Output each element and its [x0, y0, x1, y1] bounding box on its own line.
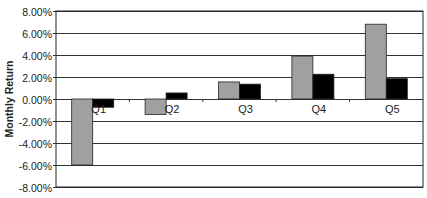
category-labels: Q1Q2Q3Q4Q5 — [91, 99, 399, 115]
bar-q3-series2 — [240, 84, 261, 99]
bar-q2-series2 — [166, 93, 187, 99]
y-tick-label: -4.00% — [19, 138, 52, 150]
category-label: Q3 — [238, 103, 253, 115]
y-tick-label: 4.00% — [22, 50, 52, 62]
bar-q4-series2 — [313, 74, 334, 99]
bar-q2-series1 — [145, 99, 166, 114]
bar-q3-series1 — [219, 82, 240, 99]
bar-q4-series1 — [292, 56, 313, 99]
y-tick-label: -8.00% — [19, 182, 52, 194]
y-tick-label: -6.00% — [19, 160, 52, 172]
y-tick-label: 2.00% — [22, 72, 52, 84]
y-tick-label: 8.00% — [22, 6, 52, 18]
y-tick-label: -2.00% — [19, 116, 52, 128]
bar-chart: 8.00%6.00%4.00%2.00%0.00%-2.00%-4.00%-6.… — [0, 0, 427, 198]
bar-q5-series2 — [386, 79, 407, 99]
y-axis-ticks: 8.00%6.00%4.00%2.00%0.00%-2.00%-4.00%-6.… — [19, 6, 56, 194]
y-tick-label: 0.00% — [22, 94, 52, 106]
category-label: Q2 — [165, 103, 180, 115]
y-axis-label: Monthly Return — [3, 61, 15, 138]
bar-q5-series1 — [365, 24, 386, 99]
category-label: Q4 — [312, 103, 327, 115]
category-label: Q1 — [91, 103, 106, 115]
category-label: Q5 — [385, 103, 400, 115]
bar-q1-series1 — [72, 99, 93, 165]
y-tick-label: 6.00% — [22, 28, 52, 40]
